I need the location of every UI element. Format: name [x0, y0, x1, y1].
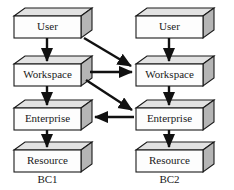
block-diagram: User Workspace Enterprise Resource User …	[0, 0, 234, 190]
node-bc1-user[interactable]	[14, 8, 92, 38]
node-bc1-workspace[interactable]	[14, 56, 92, 86]
node-bc2-user[interactable]	[136, 8, 214, 38]
node-bc2-workspace[interactable]	[136, 56, 214, 86]
node-bc2-resource[interactable]	[136, 142, 214, 172]
column-label-bc1: BC1	[14, 173, 81, 185]
column-label-bc2: BC2	[136, 173, 203, 185]
node-bc1-enterprise[interactable]	[14, 100, 92, 130]
node-bc1-resource[interactable]	[14, 142, 92, 172]
diagram-canvas	[0, 0, 234, 190]
arrow-bc1-workspace-to-bc2-enterprise	[86, 80, 132, 110]
node-bc2-enterprise[interactable]	[136, 100, 214, 130]
